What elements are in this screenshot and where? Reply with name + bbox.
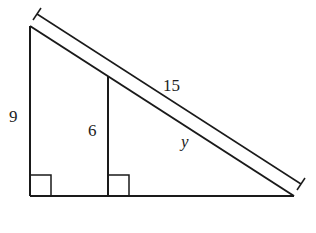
- hypotenuse-line: [30, 26, 294, 196]
- label-inner-hypotenuse: y: [181, 133, 189, 150]
- dimension-tick-end: [297, 178, 305, 190]
- label-inner-height: 6: [88, 122, 97, 139]
- dimension-tick-start: [33, 8, 41, 20]
- right-angle-marker-inner: [108, 175, 129, 196]
- triangle-figure: [0, 0, 316, 233]
- right-angle-marker-outer: [30, 175, 51, 196]
- label-hypotenuse: 15: [163, 77, 180, 94]
- diagram-canvas: 9 6 15 y: [0, 0, 316, 233]
- label-outer-height: 9: [9, 108, 18, 125]
- dimension-line: [37, 14, 301, 184]
